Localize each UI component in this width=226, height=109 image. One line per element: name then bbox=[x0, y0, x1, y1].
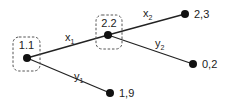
decision-node-1-1 bbox=[23, 54, 31, 62]
edge-y1 bbox=[27, 58, 110, 93]
payoff-0-2: 0,2 bbox=[202, 58, 217, 70]
node-1-1-label: 1.1 bbox=[19, 39, 34, 51]
node-2-2-label: 2.2 bbox=[101, 17, 116, 29]
edge-label-x2: x2 bbox=[143, 7, 153, 21]
decision-node-2-2 bbox=[104, 31, 112, 39]
game-tree-diagram: 1.1 2.2 x1 y1 x2 y2 2,3 0,2 1,9 bbox=[0, 0, 226, 109]
edge-y2 bbox=[108, 35, 193, 64]
payoff-2-3: 2,3 bbox=[194, 8, 209, 20]
terminal-node-0-2 bbox=[189, 60, 197, 68]
terminal-node-2-3 bbox=[181, 10, 189, 18]
edge-label-x1: x1 bbox=[65, 31, 75, 45]
edge-label-y1: y1 bbox=[74, 70, 84, 84]
edge-label-y2: y2 bbox=[155, 37, 165, 51]
payoff-1-9: 1,9 bbox=[119, 87, 134, 99]
terminal-node-1-9 bbox=[106, 89, 114, 97]
